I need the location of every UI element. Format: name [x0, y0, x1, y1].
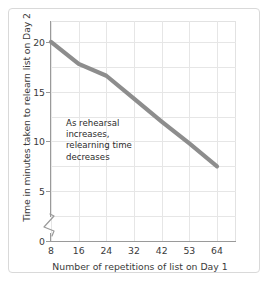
y-axis-title: Time in minutes taken to relearn list on… [21, 8, 32, 228]
x-tick-label: 42 [156, 245, 168, 256]
y-tick-label: 5 [39, 186, 45, 197]
x-tick-label: 64 [211, 245, 223, 256]
plot-area: 05101520 8162432425364 As rehearsal incr… [50, 21, 236, 242]
x-tick-label: 16 [73, 245, 85, 256]
x-tick-label: 8 [48, 245, 54, 256]
chart-annotation: As rehearsal increases, relearning time … [66, 118, 132, 163]
x-tick-label: 53 [183, 245, 195, 256]
y-tick-label: 10 [33, 136, 45, 147]
y-tick-label: 0 [39, 236, 45, 247]
chart-figure: Time in minutes taken to relearn list on… [0, 0, 270, 283]
x-tick-label: 24 [100, 245, 112, 256]
x-axis-title: Number of repetitions of list on Day 1 [30, 261, 250, 272]
x-tick-label: 32 [128, 245, 140, 256]
y-tick-label: 15 [33, 86, 45, 97]
y-tick-label: 20 [33, 36, 45, 47]
